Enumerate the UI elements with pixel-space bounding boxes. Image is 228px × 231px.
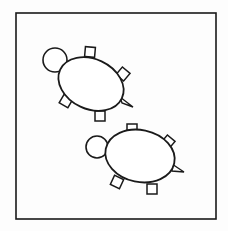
turtle-drawing xyxy=(0,0,228,231)
turtle-bottom xyxy=(86,123,184,194)
drawing-canvas xyxy=(0,0,228,231)
turtle-top xyxy=(43,47,133,121)
turtle-leg xyxy=(85,47,96,58)
turtle-leg xyxy=(95,111,105,121)
picture-frame xyxy=(16,13,216,219)
turtle-leg xyxy=(147,184,157,194)
turtles-group xyxy=(43,47,184,194)
